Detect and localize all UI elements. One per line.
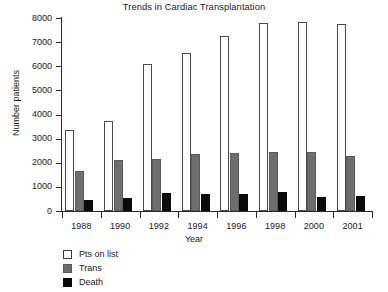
bar-death-1990 xyxy=(123,198,132,212)
x-axis-tick-label-1992: 1992 xyxy=(140,221,179,231)
bar-pts-on-list-2000 xyxy=(298,22,307,211)
y-axis-tick-label: 7000 xyxy=(32,38,52,47)
y-axis-tick-label: 8000 xyxy=(32,14,52,23)
y-axis-tick-label: 1000 xyxy=(32,182,52,191)
legend-swatch-icon xyxy=(63,250,72,259)
bar-death-2001 xyxy=(356,196,365,211)
bar-pts-on-list-1988 xyxy=(65,130,74,211)
y-axis-tick-label: 3000 xyxy=(32,134,52,143)
bar-trans-2000 xyxy=(307,152,316,211)
x-axis-tick-label-1996: 1996 xyxy=(217,221,256,231)
bar-pts-on-list-1994 xyxy=(182,53,191,212)
legend-item-pts-on-list: Pts on list xyxy=(63,247,223,261)
x-axis-tick-label-1994: 1994 xyxy=(178,221,217,231)
bar-pts-on-list-1990 xyxy=(104,121,113,211)
legend-swatch-icon xyxy=(63,264,72,273)
bar-death-1994 xyxy=(201,194,210,211)
bar-death-1992 xyxy=(162,193,171,211)
x-axis-tick xyxy=(101,212,102,218)
x-axis-label: Year xyxy=(0,234,388,244)
bar-trans-1988 xyxy=(75,171,84,211)
bar-pts-on-list-1992 xyxy=(143,64,152,211)
y-axis-tick-label: 2000 xyxy=(32,158,52,167)
bar-pts-on-list-1996 xyxy=(220,36,229,211)
x-axis-tick xyxy=(295,212,296,218)
bar-death-1998 xyxy=(278,192,287,211)
bar-death-2000 xyxy=(317,197,326,211)
x-axis-tick xyxy=(140,212,141,218)
x-axis-tick-label-2001: 2001 xyxy=(333,221,372,231)
legend-label: Trans xyxy=(79,263,102,273)
x-axis-tick xyxy=(256,212,257,218)
x-axis-tick-label-2000: 2000 xyxy=(295,221,334,231)
bar-trans-1998 xyxy=(269,152,278,211)
legend-label: Death xyxy=(79,277,103,287)
bar-pts-on-list-1998 xyxy=(259,23,268,211)
legend-swatch-icon xyxy=(63,278,72,287)
bar-trans-1996 xyxy=(230,153,239,211)
x-axis-tick xyxy=(333,212,334,218)
y-axis-tick-label: 6000 xyxy=(32,62,52,71)
x-axis-tick xyxy=(62,212,63,218)
legend-item-death: Death xyxy=(63,275,223,289)
bar-trans-2001 xyxy=(346,156,355,211)
y-axis-tick-label: 0 xyxy=(47,207,52,216)
bar-trans-1994 xyxy=(191,154,200,211)
y-axis-tick-label: 4000 xyxy=(32,110,52,119)
x-axis-tick-label-1988: 1988 xyxy=(62,221,101,231)
x-axis-tick-label-1990: 1990 xyxy=(101,221,140,231)
bar-pts-on-list-2001 xyxy=(337,24,346,211)
chart-legend: Pts on listTransDeath xyxy=(63,247,223,289)
bar-trans-1990 xyxy=(114,160,123,211)
plot-area xyxy=(62,18,372,211)
x-axis-tick-label-1998: 1998 xyxy=(256,221,295,231)
bar-death-1996 xyxy=(239,194,248,211)
y-axis-label: Number patients xyxy=(11,48,21,158)
bar-trans-1992 xyxy=(152,159,161,211)
x-axis-tick xyxy=(372,212,373,218)
x-axis-tick xyxy=(217,212,218,218)
y-axis-tick-label: 5000 xyxy=(32,86,52,95)
chart-title: Trends in Cardiac Transplantation xyxy=(0,2,388,12)
x-axis-tick xyxy=(178,212,179,218)
cardiac-transplantation-bar-chart: Trends in Cardiac Transplantation Number… xyxy=(0,0,388,292)
legend-label: Pts on list xyxy=(79,249,118,259)
legend-item-trans: Trans xyxy=(63,261,223,275)
bar-death-1988 xyxy=(84,200,93,211)
